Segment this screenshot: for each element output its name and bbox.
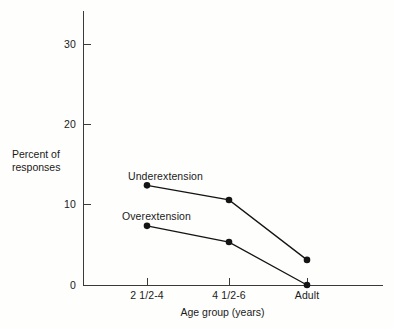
series-polyline	[147, 185, 307, 260]
data-point-marker	[144, 182, 151, 189]
series-overextension	[144, 223, 311, 289]
series-underextension	[144, 182, 311, 263]
chart-figure: 30 20 10 0 2 1/2-4 4 1/2-6 Adult Percent…	[0, 0, 395, 329]
series-polyline	[147, 226, 307, 285]
data-point-marker	[304, 282, 311, 289]
plot-area	[0, 0, 395, 329]
data-point-marker	[304, 257, 311, 264]
data-point-marker	[226, 197, 233, 204]
data-point-marker	[226, 239, 233, 246]
data-point-marker	[144, 223, 151, 230]
